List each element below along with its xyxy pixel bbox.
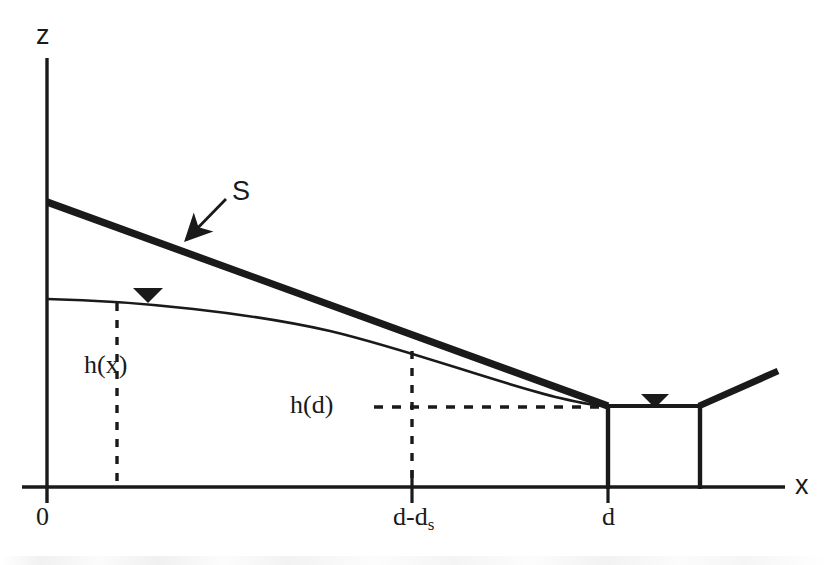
slope-leader-arrow-icon xyxy=(186,199,226,240)
figure-root: z x 0 S h(x) h(d) d-ds d xyxy=(0,0,828,565)
dashed-guide-group xyxy=(117,303,609,487)
reservoir-box xyxy=(607,404,701,489)
water-level-marker-left xyxy=(133,288,163,303)
z-axis-label: z xyxy=(36,22,50,49)
x-axis-label: x xyxy=(795,472,809,499)
origin-label: 0 xyxy=(36,504,49,530)
water-depth-profile-label: h(x) xyxy=(84,352,127,378)
tick-label-d-minus-ds-base: d-d xyxy=(393,502,428,531)
tick-label-d: d xyxy=(602,504,615,530)
tick-label-d-minus-ds-subscript: s xyxy=(428,515,435,534)
axis-group xyxy=(22,58,785,503)
water-depth-at-d-label: h(d) xyxy=(290,392,333,418)
diagram-canvas xyxy=(0,0,828,565)
tick-label-d-minus-ds: d-ds xyxy=(393,504,434,533)
downstream-bank-line xyxy=(699,371,778,406)
water-level-triangle-icon xyxy=(133,288,163,303)
slope-line-label: S xyxy=(232,178,250,205)
